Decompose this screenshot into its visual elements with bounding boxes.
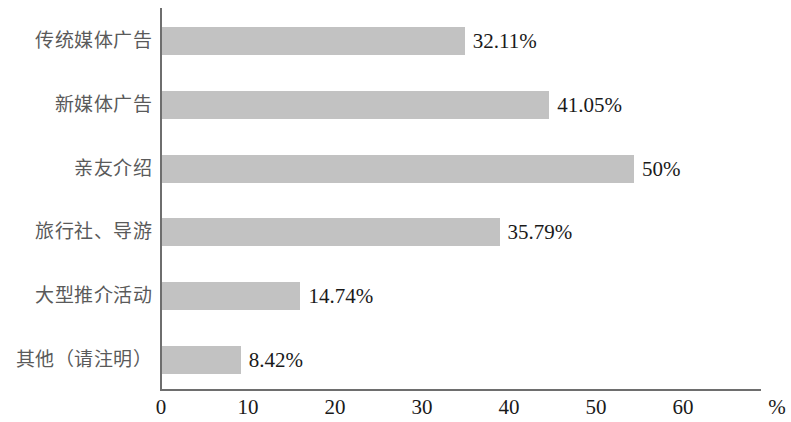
bar-value-label: 32.11% xyxy=(473,27,537,55)
bar-chart: 传统媒体广告新媒体广告亲友介绍旅行社、导游大型推介活动其他（请注明） 32.11… xyxy=(0,0,791,422)
y-axis-line xyxy=(160,8,162,390)
category-label: 传统媒体广告 xyxy=(0,31,152,50)
category-label: 亲友介绍 xyxy=(0,159,152,178)
bar-value-label: 14.74% xyxy=(308,282,373,310)
bar xyxy=(161,91,549,119)
bar-value-label: 50% xyxy=(642,155,681,183)
bar-value-label: 41.05% xyxy=(557,91,622,119)
plot-area: 32.11%41.05%50%35.79%14.74%8.42% xyxy=(161,0,791,422)
bar xyxy=(161,27,465,55)
x-tick-label: 10 xyxy=(238,395,259,420)
bar-value-label: 8.42% xyxy=(249,346,303,374)
x-tick-label: 30 xyxy=(412,395,433,420)
x-tick-label: 0 xyxy=(156,395,167,420)
category-label: 新媒体广告 xyxy=(0,95,152,114)
category-label: 大型推介活动 xyxy=(0,286,152,305)
x-tick-label: 60 xyxy=(673,395,694,420)
bar xyxy=(161,218,500,246)
category-label: 旅行社、导游 xyxy=(0,222,152,241)
bar xyxy=(161,346,241,374)
category-axis-labels: 传统媒体广告新媒体广告亲友介绍旅行社、导游大型推介活动其他（请注明） xyxy=(0,0,152,422)
x-axis-line xyxy=(160,389,761,391)
bar xyxy=(161,282,300,310)
x-tick-label: 20 xyxy=(325,395,346,420)
x-tick-label: 50 xyxy=(586,395,607,420)
x-axis-unit-label: % xyxy=(768,395,786,420)
bar-value-label: 35.79% xyxy=(508,218,573,246)
bar xyxy=(161,155,634,183)
category-label: 其他（请注明） xyxy=(0,350,152,369)
x-tick-label: 40 xyxy=(499,395,520,420)
